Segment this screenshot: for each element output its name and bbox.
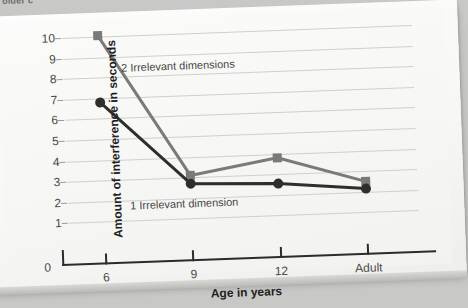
- y-tick-mark: [57, 100, 63, 101]
- photographed-page: 12345678910 6912Adult 0 Age in years Amo…: [0, 0, 467, 289]
- cut-off-caption: older c: [2, 0, 33, 5]
- y-tick-label: 4: [53, 155, 60, 169]
- y-tick-label: 8: [50, 72, 57, 86]
- data-point-marker: [273, 153, 282, 162]
- y-tick-mark: [57, 79, 63, 80]
- x-tick-label: Adult: [355, 260, 383, 275]
- x-tick-label: 6: [103, 270, 110, 284]
- y-tick-label: 10: [41, 31, 55, 45]
- y-axis-origin-stub: [62, 250, 65, 266]
- y-tick-mark: [56, 59, 62, 60]
- x-tick-label: 12: [275, 264, 289, 278]
- y-tick-label: 3: [53, 175, 60, 189]
- data-point-marker: [273, 178, 283, 188]
- y-tick-label: 2: [54, 196, 61, 210]
- data-point-marker: [93, 31, 102, 40]
- series-line: [98, 26, 366, 191]
- y-tick-mark: [61, 203, 67, 204]
- y-tick-mark: [62, 223, 68, 224]
- y-axis-zero-label: 0: [44, 260, 51, 274]
- y-tick-mark: [60, 161, 66, 162]
- series-line: [100, 93, 366, 198]
- y-tick-mark: [55, 38, 61, 39]
- plot-area: 12345678910 6912Adult 0 Age in years Amo…: [62, 25, 419, 244]
- y-tick-label: 7: [50, 93, 57, 107]
- y-tick-mark: [60, 182, 66, 183]
- y-tick-mark: [58, 120, 64, 121]
- y-tick-label: 1: [55, 216, 62, 230]
- x-axis-title: Age in years: [211, 284, 283, 301]
- y-tick-label: 5: [52, 134, 59, 148]
- y-tick-label: 9: [49, 52, 56, 66]
- y-tick-label: 6: [51, 113, 58, 127]
- y-tick-mark: [59, 141, 65, 142]
- x-tick-label: 9: [190, 267, 197, 281]
- chart-figure: 12345678910 6912Adult 0 Age in years Amo…: [0, 6, 453, 280]
